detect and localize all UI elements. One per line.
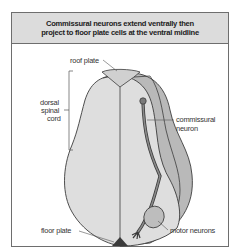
label-floor-plate: floor plate bbox=[41, 226, 71, 235]
label-roof-plate: roof plate bbox=[70, 56, 99, 65]
label-dorsal-spinal-cord-3: cord bbox=[47, 114, 61, 123]
spinal-cord-diagram: roof plate dorsal spinal cord commissura… bbox=[0, 0, 241, 252]
label-commissural-neuron-1: commissural bbox=[176, 115, 216, 124]
commissural-neuron-soma bbox=[140, 98, 146, 104]
label-commissural-neuron-2: neuron bbox=[176, 124, 198, 133]
label-motor-neurons: motor neurons bbox=[170, 226, 216, 235]
